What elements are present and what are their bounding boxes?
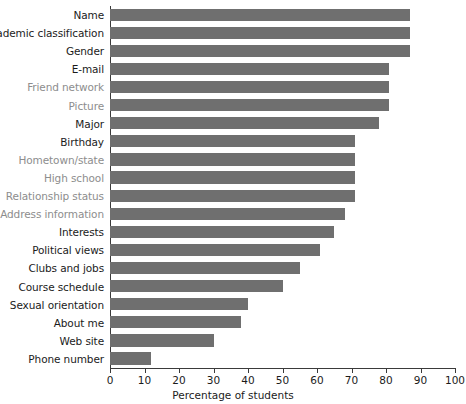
bar bbox=[110, 153, 355, 165]
bar bbox=[110, 334, 214, 346]
category-label: Political views bbox=[32, 241, 110, 259]
bar-row: Course schedule bbox=[110, 278, 455, 296]
bar bbox=[110, 226, 334, 238]
bar bbox=[110, 298, 248, 310]
category-label: Birthday bbox=[60, 133, 110, 151]
x-tick bbox=[145, 368, 146, 373]
bar-row: Sexual orientation bbox=[110, 296, 455, 314]
bar-row: Academic classification bbox=[110, 24, 455, 42]
bar-row: Relationship status bbox=[110, 187, 455, 205]
bar bbox=[110, 135, 355, 147]
x-tick bbox=[110, 368, 111, 373]
x-axis-title-text: Percentage of students bbox=[172, 389, 293, 401]
bar bbox=[110, 45, 410, 57]
bar-row: Web site bbox=[110, 332, 455, 350]
bar bbox=[110, 280, 283, 292]
category-label: Hometown/state bbox=[18, 151, 110, 169]
category-label: Friend network bbox=[27, 78, 110, 96]
bar-row: Interests bbox=[110, 223, 455, 241]
bar-row: Address information bbox=[110, 205, 455, 223]
bar bbox=[110, 190, 355, 202]
category-label: Academic classification bbox=[0, 24, 110, 42]
x-axis-title: Percentage of students bbox=[0, 389, 466, 401]
category-label: Clubs and jobs bbox=[28, 259, 110, 277]
bar-row: Hometown/state bbox=[110, 151, 455, 169]
x-tick bbox=[455, 368, 456, 373]
plot-area: NameAcademic classificationGenderE-mailF… bbox=[110, 6, 455, 368]
x-tick bbox=[283, 368, 284, 373]
bar bbox=[110, 244, 320, 256]
x-tick bbox=[179, 368, 180, 373]
bar bbox=[110, 316, 241, 328]
bar bbox=[110, 171, 355, 183]
bar-row: Picture bbox=[110, 97, 455, 115]
bar-row: Political views bbox=[110, 241, 455, 259]
bar-chart: NameAcademic classificationGenderE-mailF… bbox=[0, 0, 466, 404]
bar bbox=[110, 117, 379, 129]
category-label: Gender bbox=[66, 42, 110, 60]
bar bbox=[110, 27, 410, 39]
category-label: Course schedule bbox=[18, 278, 110, 296]
category-label: Phone number bbox=[28, 350, 110, 368]
x-tick bbox=[421, 368, 422, 373]
category-label: Picture bbox=[69, 97, 110, 115]
bar bbox=[110, 208, 345, 220]
category-label: E-mail bbox=[72, 60, 110, 78]
x-tick bbox=[386, 368, 387, 373]
category-label: Major bbox=[75, 115, 110, 133]
bar-row: Friend network bbox=[110, 78, 455, 96]
bar bbox=[110, 262, 300, 274]
bar-row: Phone number bbox=[110, 350, 455, 368]
x-tick bbox=[352, 368, 353, 373]
bar bbox=[110, 352, 151, 364]
category-label: Name bbox=[73, 6, 110, 24]
bar-row: Name bbox=[110, 6, 455, 24]
bar-row: E-mail bbox=[110, 60, 455, 78]
category-label: Relationship status bbox=[6, 187, 110, 205]
bar-row: Gender bbox=[110, 42, 455, 60]
category-label: High school bbox=[44, 169, 110, 187]
x-tick-label: 100 bbox=[435, 374, 466, 386]
category-label: About me bbox=[54, 314, 110, 332]
bar bbox=[110, 63, 389, 75]
bar-row: Major bbox=[110, 115, 455, 133]
category-label: Web site bbox=[60, 332, 110, 350]
bar bbox=[110, 81, 389, 93]
bar-row: About me bbox=[110, 314, 455, 332]
bar-row: Birthday bbox=[110, 133, 455, 151]
bar-row: Clubs and jobs bbox=[110, 259, 455, 277]
bar bbox=[110, 99, 389, 111]
category-label: Sexual orientation bbox=[10, 296, 110, 314]
bar bbox=[110, 9, 410, 21]
x-tick bbox=[317, 368, 318, 373]
category-label: Address information bbox=[0, 205, 110, 223]
category-label: Interests bbox=[59, 223, 110, 241]
x-tick bbox=[248, 368, 249, 373]
bar-row: High school bbox=[110, 169, 455, 187]
x-tick bbox=[214, 368, 215, 373]
